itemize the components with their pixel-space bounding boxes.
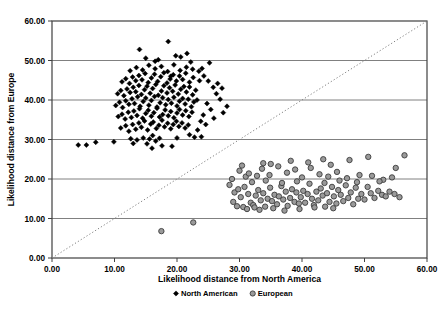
- data-point-north-american: [192, 135, 197, 140]
- legend-marker-european: [250, 291, 255, 296]
- data-point-north-american: [153, 66, 158, 71]
- data-point-european: [271, 206, 276, 211]
- data-point-north-american: [225, 104, 230, 109]
- data-point-european: [254, 173, 259, 178]
- data-point-european: [246, 171, 251, 176]
- data-point-european: [279, 180, 284, 185]
- data-point-north-american: [149, 98, 154, 103]
- data-point-north-american: [121, 93, 126, 98]
- data-point-north-american: [205, 101, 210, 106]
- data-point-european: [322, 180, 327, 185]
- data-point-north-american: [123, 98, 128, 103]
- data-point-north-american: [125, 86, 130, 91]
- data-point-north-american: [183, 101, 188, 106]
- data-point-north-american: [198, 119, 203, 124]
- data-point-north-american: [146, 103, 151, 108]
- data-point-european: [305, 191, 310, 196]
- data-point-north-american: [163, 107, 168, 112]
- data-point-european: [321, 157, 326, 162]
- data-point-european: [316, 198, 321, 203]
- data-point-european: [354, 179, 359, 184]
- data-point-north-american: [187, 132, 192, 137]
- data-point-north-american: [208, 107, 213, 112]
- chart-legend: North AmericanEuropean: [173, 289, 293, 298]
- data-point-north-american: [185, 51, 190, 56]
- data-point-north-american: [186, 114, 191, 119]
- data-point-north-american: [147, 137, 152, 142]
- data-point-north-american: [176, 92, 181, 97]
- data-point-north-american: [152, 72, 157, 77]
- data-point-european: [331, 194, 336, 199]
- data-point-north-american: [203, 122, 208, 127]
- data-point-european: [302, 200, 307, 205]
- data-point-european: [283, 189, 288, 194]
- data-point-european: [259, 166, 264, 171]
- data-point-north-american: [211, 116, 216, 121]
- x-axis-ticks: [52, 258, 427, 262]
- data-point-european: [229, 176, 234, 181]
- data-point-north-american: [133, 127, 138, 132]
- data-point-north-american: [113, 103, 118, 108]
- data-point-north-american: [220, 86, 225, 91]
- data-point-north-american: [135, 137, 140, 142]
- data-point-european: [368, 191, 373, 196]
- data-point-north-american: [131, 109, 136, 114]
- data-point-north-american: [215, 81, 220, 86]
- data-point-north-american: [159, 88, 164, 93]
- data-point-european: [318, 186, 323, 191]
- data-point-european: [257, 207, 262, 212]
- data-point-north-american: [180, 113, 185, 118]
- data-point-european: [353, 185, 358, 190]
- scatter-chart: 0.0010.0020.0030.0040.0050.0060.00 0.001…: [0, 0, 445, 318]
- data-point-european: [267, 172, 272, 177]
- data-point-european: [334, 169, 339, 174]
- data-point-european: [357, 172, 362, 177]
- x-tick-label-10: 10.00: [104, 265, 125, 274]
- data-point-european: [261, 191, 266, 196]
- data-point-north-american: [145, 128, 150, 133]
- data-point-north-american: [150, 133, 155, 138]
- data-point-european: [329, 184, 334, 189]
- data-point-north-american: [127, 81, 132, 86]
- data-point-north-american: [133, 78, 138, 83]
- data-point-north-american: [128, 90, 133, 95]
- data-point-north-american: [129, 115, 134, 120]
- data-point-north-american: [189, 104, 194, 109]
- data-point-north-american: [143, 56, 148, 61]
- data-point-european: [317, 172, 322, 177]
- data-point-north-american: [126, 102, 131, 107]
- data-point-north-american: [145, 141, 150, 146]
- data-point-north-american: [166, 113, 171, 118]
- data-point-european: [312, 205, 317, 210]
- x-tick-label-20: 20.00: [167, 265, 188, 274]
- data-point-european: [393, 165, 398, 170]
- data-point-european: [276, 164, 281, 169]
- data-point-north-american: [165, 90, 170, 95]
- series-european-points: [159, 153, 408, 234]
- data-point-north-american: [126, 129, 131, 134]
- data-point-european: [249, 179, 254, 184]
- data-point-european: [365, 184, 370, 189]
- data-point-european: [377, 179, 382, 184]
- x-tick-label-30: 30.00: [229, 265, 250, 274]
- data-point-european: [262, 204, 267, 209]
- legend-marker-north-american: [173, 291, 178, 296]
- data-point-north-american: [166, 97, 171, 102]
- data-point-north-american: [166, 39, 171, 44]
- data-point-european: [256, 187, 261, 192]
- data-point-european: [331, 206, 336, 211]
- data-point-north-american: [158, 100, 163, 105]
- y-tick-label-20: 20.00: [25, 175, 46, 184]
- data-point-european: [296, 201, 301, 206]
- data-point-european: [346, 195, 351, 200]
- data-point-european: [261, 161, 266, 166]
- data-point-north-american: [199, 134, 204, 139]
- data-point-north-american: [159, 64, 164, 69]
- data-point-north-american: [176, 124, 181, 129]
- data-point-north-american: [128, 68, 133, 73]
- data-point-european: [294, 179, 299, 184]
- data-point-european: [253, 193, 258, 198]
- data-point-european: [297, 206, 302, 211]
- data-point-european: [389, 175, 394, 180]
- data-point-european: [402, 153, 407, 158]
